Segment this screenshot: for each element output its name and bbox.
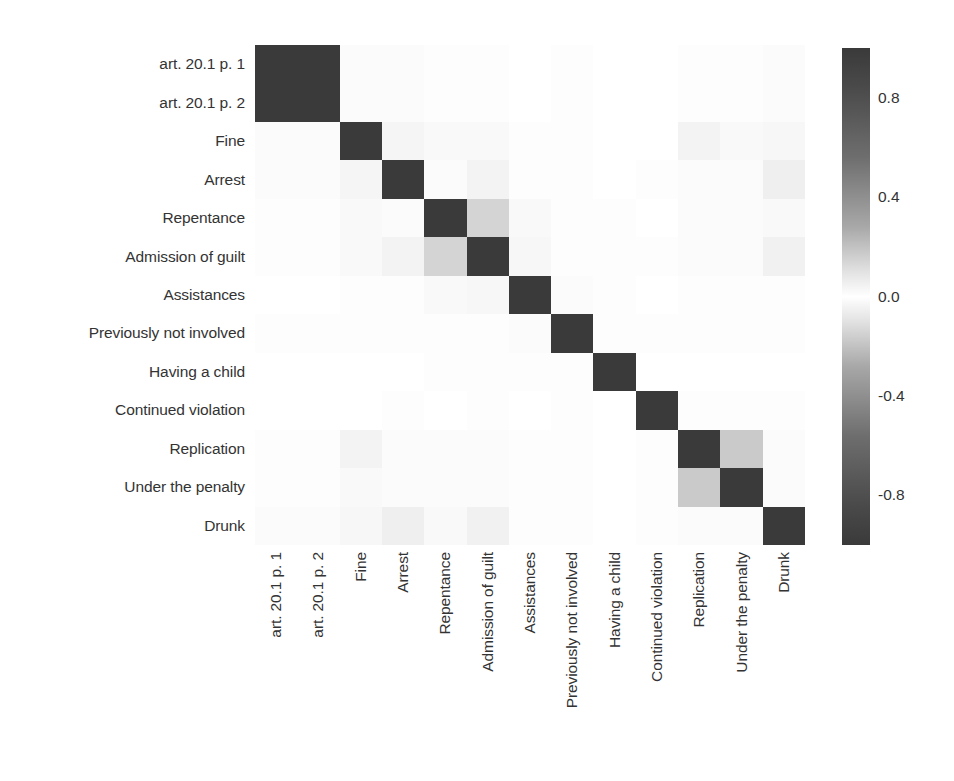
heatmap-cell[interactable]: [340, 391, 382, 429]
heatmap-cell[interactable]: [340, 468, 382, 506]
heatmap-cell[interactable]: [678, 507, 720, 545]
heatmap-cell[interactable]: [509, 237, 551, 275]
heatmap-cell[interactable]: [340, 83, 382, 121]
heatmap-cell[interactable]: [636, 45, 678, 83]
heatmap-cell[interactable]: [297, 430, 339, 468]
heatmap-cell[interactable]: [340, 430, 382, 468]
heatmap-cell[interactable]: [509, 391, 551, 429]
heatmap-cell[interactable]: [763, 45, 805, 83]
heatmap-cell[interactable]: [297, 353, 339, 391]
heatmap-cell[interactable]: [551, 314, 593, 352]
heatmap-cell[interactable]: [678, 468, 720, 506]
heatmap-cell[interactable]: [551, 507, 593, 545]
heatmap-cell[interactable]: [636, 276, 678, 314]
heatmap-cell[interactable]: [382, 507, 424, 545]
heatmap-cell[interactable]: [720, 507, 762, 545]
heatmap-cell[interactable]: [763, 507, 805, 545]
heatmap-cell[interactable]: [720, 391, 762, 429]
heatmap-cell[interactable]: [509, 468, 551, 506]
heatmap-cell[interactable]: [255, 83, 297, 121]
heatmap-cell[interactable]: [340, 276, 382, 314]
heatmap-cell[interactable]: [467, 391, 509, 429]
heatmap-cell[interactable]: [678, 314, 720, 352]
heatmap-cell[interactable]: [424, 353, 466, 391]
heatmap-cell[interactable]: [297, 122, 339, 160]
heatmap-cell[interactable]: [720, 199, 762, 237]
heatmap-cell[interactable]: [297, 507, 339, 545]
heatmap-cell[interactable]: [763, 430, 805, 468]
heatmap-cell[interactable]: [636, 353, 678, 391]
heatmap-cell[interactable]: [509, 45, 551, 83]
heatmap-cell[interactable]: [255, 122, 297, 160]
heatmap-cell[interactable]: [720, 122, 762, 160]
heatmap-cell[interactable]: [720, 83, 762, 121]
heatmap-cell[interactable]: [551, 353, 593, 391]
heatmap-cell[interactable]: [720, 237, 762, 275]
heatmap-cell[interactable]: [424, 83, 466, 121]
heatmap-cell[interactable]: [382, 83, 424, 121]
heatmap-cell[interactable]: [509, 430, 551, 468]
heatmap-cell[interactable]: [255, 353, 297, 391]
heatmap-cell[interactable]: [382, 160, 424, 198]
heatmap-cell[interactable]: [467, 122, 509, 160]
heatmap-cell[interactable]: [551, 468, 593, 506]
heatmap-cell[interactable]: [593, 199, 635, 237]
heatmap-cell[interactable]: [720, 314, 762, 352]
heatmap-cell[interactable]: [382, 314, 424, 352]
heatmap-cell[interactable]: [678, 237, 720, 275]
heatmap-cell[interactable]: [424, 45, 466, 83]
heatmap-cell[interactable]: [509, 353, 551, 391]
heatmap-cell[interactable]: [551, 160, 593, 198]
heatmap-cell[interactable]: [763, 83, 805, 121]
heatmap-cell[interactable]: [297, 83, 339, 121]
heatmap-cell[interactable]: [763, 237, 805, 275]
heatmap-cell[interactable]: [340, 353, 382, 391]
heatmap-cell[interactable]: [467, 353, 509, 391]
heatmap-cell[interactable]: [678, 160, 720, 198]
heatmap-grid[interactable]: [255, 45, 805, 545]
heatmap-cell[interactable]: [636, 199, 678, 237]
heatmap-cell[interactable]: [255, 199, 297, 237]
heatmap-cell[interactable]: [424, 199, 466, 237]
heatmap-cell[interactable]: [763, 122, 805, 160]
heatmap-cell[interactable]: [593, 237, 635, 275]
heatmap-cell[interactable]: [255, 160, 297, 198]
heatmap-cell[interactable]: [255, 314, 297, 352]
heatmap-cell[interactable]: [636, 160, 678, 198]
heatmap-cell[interactable]: [678, 122, 720, 160]
heatmap-cell[interactable]: [255, 468, 297, 506]
heatmap-cell[interactable]: [382, 122, 424, 160]
heatmap-cell[interactable]: [763, 314, 805, 352]
heatmap-cell[interactable]: [509, 314, 551, 352]
heatmap-cell[interactable]: [467, 430, 509, 468]
heatmap-cell[interactable]: [720, 276, 762, 314]
heatmap-cell[interactable]: [551, 122, 593, 160]
heatmap-cell[interactable]: [551, 199, 593, 237]
heatmap-cell[interactable]: [593, 391, 635, 429]
heatmap-cell[interactable]: [382, 237, 424, 275]
heatmap-cell[interactable]: [340, 160, 382, 198]
heatmap-cell[interactable]: [509, 83, 551, 121]
heatmap-cell[interactable]: [467, 314, 509, 352]
heatmap-cell[interactable]: [467, 468, 509, 506]
heatmap-cell[interactable]: [593, 314, 635, 352]
heatmap-cell[interactable]: [763, 468, 805, 506]
heatmap-cell[interactable]: [593, 468, 635, 506]
heatmap-cell[interactable]: [678, 430, 720, 468]
heatmap-cell[interactable]: [382, 391, 424, 429]
heatmap-cell[interactable]: [509, 276, 551, 314]
heatmap-cell[interactable]: [255, 507, 297, 545]
heatmap-cell[interactable]: [255, 430, 297, 468]
heatmap-cell[interactable]: [340, 45, 382, 83]
heatmap-cell[interactable]: [467, 83, 509, 121]
heatmap-cell[interactable]: [255, 391, 297, 429]
heatmap-cell[interactable]: [255, 45, 297, 83]
heatmap-cell[interactable]: [593, 430, 635, 468]
heatmap-cell[interactable]: [509, 122, 551, 160]
heatmap-cell[interactable]: [593, 83, 635, 121]
heatmap-cell[interactable]: [763, 160, 805, 198]
heatmap-cell[interactable]: [340, 122, 382, 160]
heatmap-cell[interactable]: [382, 199, 424, 237]
heatmap-cell[interactable]: [255, 276, 297, 314]
heatmap-cell[interactable]: [551, 237, 593, 275]
